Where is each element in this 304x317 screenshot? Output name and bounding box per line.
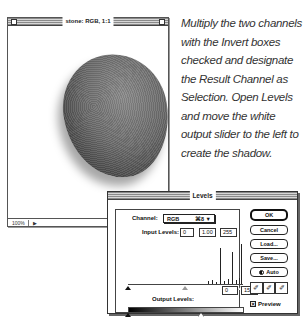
checkbox-checked-icon[interactable]: ✕ [250,301,256,307]
channel-label: Channel: [130,215,160,221]
load-button[interactable]: Load... [250,239,288,249]
output-black-slider[interactable] [125,313,131,317]
zoom-percentage[interactable]: 100% [12,220,29,226]
auto-contrast-icon [259,270,264,275]
preview-label: Preview [258,301,281,307]
input-black-field[interactable]: 0 [180,228,194,237]
levels-group-box: Channel: RGB ⌘8 ▼ Input Levels: 0 1.00 2… [115,209,240,313]
channel-select[interactable]: RGB ⌘8 ▼ [163,214,215,223]
input-white-field[interactable]: 255 [220,228,237,237]
ok-button[interactable]: OK [250,209,288,221]
instruction-caption: Multiply the two channels with the Inver… [181,14,303,162]
auto-button[interactable]: Auto [250,267,288,277]
close-box-icon[interactable] [11,19,17,25]
stone-image [56,47,168,184]
image-canvas[interactable] [8,27,168,218]
cancel-button[interactable]: Cancel [250,225,288,235]
levels-titlebar[interactable]: Levels [108,192,297,200]
doc-info-arrow-icon[interactable]: ▶ [33,220,37,226]
histogram [128,243,243,285]
black-eyedropper-icon[interactable]: ✐ [250,282,263,294]
input-levels-label: Input Levels: [142,229,179,235]
levels-title: Levels [189,191,215,200]
output-gradient-bar [128,307,244,313]
output-levels-label: Output Levels: [152,296,194,302]
image-window-title: stone: RGB, 1:1 [62,17,113,26]
auto-label: Auto [266,269,279,275]
eyedropper-group: ✐ ✐ ✐ [250,282,288,294]
save-button[interactable]: Save... [250,253,288,263]
white-eyedropper-icon[interactable]: ✐ [275,282,288,294]
preview-checkbox[interactable]: ✕ Preview [250,301,281,307]
image-window-titlebar[interactable]: stone: RGB, 1:1 [8,18,168,26]
input-gamma-field[interactable]: 1.00 [199,228,216,237]
input-gamma-slider[interactable] [182,286,188,290]
zoom-box-icon[interactable] [159,19,165,25]
levels-dialog[interactable]: Levels Channel: RGB ⌘8 ▼ Input Levels: 0… [107,191,298,314]
gray-eyedropper-icon[interactable]: ✐ [263,282,276,294]
channel-value: RGB [167,216,179,222]
chevron-down-icon: ⌘8 ▼ [195,216,211,222]
output-black-field[interactable]: 0 [222,286,238,295]
input-black-slider[interactable] [125,286,131,290]
